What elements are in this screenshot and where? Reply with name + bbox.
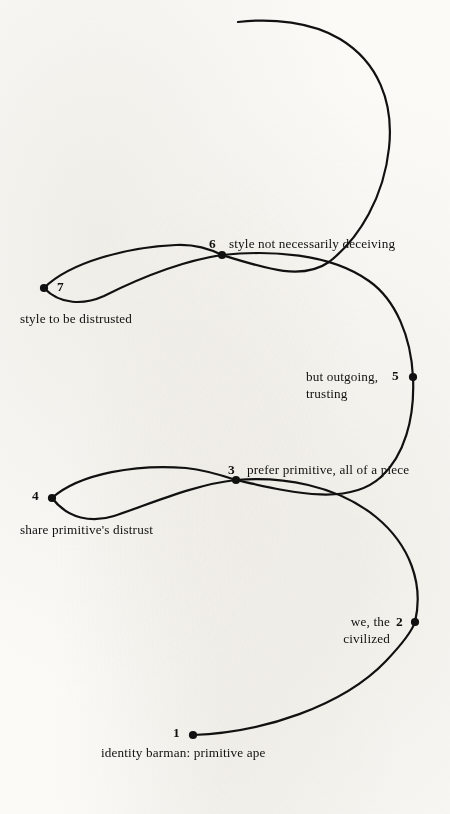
node-label-5-line2: trusting (306, 385, 386, 402)
node-dot-1[interactable] (189, 731, 197, 739)
node-dot-5[interactable] (409, 373, 417, 381)
node-label-5: but outgoing, trusting (306, 368, 386, 402)
node-label-2-line1: we, the (316, 613, 390, 630)
node-number-5: 5 (392, 369, 399, 382)
node-number-4: 4 (32, 489, 39, 502)
node-dot-7[interactable] (40, 284, 48, 292)
spiral-curve-graphic (0, 0, 450, 814)
node-label-4: share primitive's distrust (20, 521, 153, 538)
node-label-7: style to be distrusted (20, 310, 132, 327)
curve-segment-5-bulge (222, 253, 413, 477)
curve-segment-3-to-4-lower (52, 480, 236, 519)
node-number-1: 1 (173, 726, 180, 739)
node-label-1: identity barman: primitive ape (101, 744, 266, 761)
node-dot-2[interactable] (411, 618, 419, 626)
node-label-5-line1: but outgoing, (306, 368, 386, 385)
node-label-3: prefer primitive, all of a piece (247, 461, 409, 478)
node-number-3: 3 (228, 463, 235, 476)
diagram-page: 1 identity barman: primitive ape 2 we, t… (0, 0, 450, 814)
curve-segment-1-to-3 (193, 479, 418, 735)
node-number-2: 2 (396, 615, 403, 628)
node-number-6: 6 (209, 237, 216, 250)
node-label-2-line2: civilized (316, 630, 390, 647)
curve-segment-6-to-7-lower (44, 255, 222, 302)
curve-segment-top-loop (238, 21, 390, 262)
node-dot-4[interactable] (48, 494, 56, 502)
node-label-2: we, the civilized (316, 613, 390, 647)
node-number-7: 7 (57, 280, 64, 293)
node-dot-3[interactable] (232, 476, 240, 484)
node-label-6: style not necessarily deceiving (229, 235, 395, 252)
node-dot-6[interactable] (218, 251, 226, 259)
